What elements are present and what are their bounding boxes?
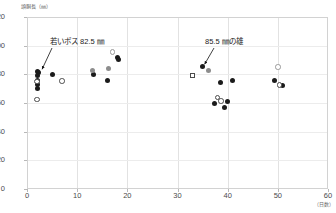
y-tick-label: 40 [0,128,5,136]
x-tick-mark [278,189,279,192]
y-tick-label: 100 [0,42,5,50]
data-point [225,99,230,104]
x-tick-mark [228,189,229,192]
x-tick-mark [178,189,179,192]
data-point [91,72,96,77]
x-tick-mark [77,189,78,192]
data-point [190,73,195,78]
data-point [230,78,235,83]
data-point [218,98,224,104]
data-point [272,78,277,83]
y-tick-mark [24,74,27,75]
annotation-left: 若いボス 82.5 ㎜ [50,37,104,46]
data-point [200,64,205,69]
horizontal-gridline [28,160,327,161]
data-point [34,79,40,85]
data-point [50,72,55,77]
data-point [105,78,110,83]
y-tick-label: 20 [0,156,5,164]
data-point [218,80,223,85]
x-tick-label: 50 [267,192,289,200]
data-point [275,64,281,70]
data-point [277,82,283,88]
data-point [212,101,217,106]
x-tick-label: 0 [16,192,38,200]
scatter-chart: 頭胴長（㎜） （日数） 020406080100120 010203040506… [0,0,336,213]
data-point [222,105,227,110]
y-tick-mark [24,17,27,18]
data-point [116,57,121,62]
data-point [34,97,40,103]
horizontal-gridline [28,74,327,75]
x-tick-label: 20 [116,192,138,200]
x-tick-label: 60 [317,192,336,200]
y-tick-label: 120 [0,13,5,21]
y-tick-mark [24,132,27,133]
x-tick-label: 30 [167,192,189,200]
horizontal-gridline [28,132,327,133]
y-tick-mark [24,46,27,47]
horizontal-gridline [28,103,327,104]
x-tick-mark [328,189,329,192]
data-point [59,78,65,84]
x-tick-label: 10 [66,192,88,200]
y-tick-mark [24,103,27,104]
data-point [106,66,111,71]
data-point [90,68,95,73]
x-tick-mark [27,189,28,192]
y-tick-label: 60 [0,99,5,107]
y-tick-label: 80 [0,70,5,78]
x-tick-label: 40 [217,192,239,200]
data-point [110,49,116,55]
annotation-right: 85.5 ㎜の雄 [205,37,243,46]
y-tick-label: 0 [0,185,5,193]
x-axis-title: （日数） [314,200,334,207]
x-tick-mark [127,189,128,192]
y-axis-title: 頭胴長（㎜） [21,2,51,9]
y-tick-mark [24,160,27,161]
